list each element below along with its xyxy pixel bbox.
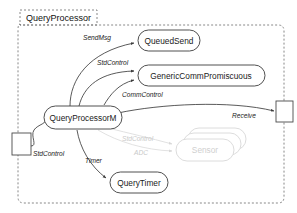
port-left-stdcontrol[interactable] xyxy=(12,133,31,155)
diagram-canvas: QueryProcessor Sensor StdControl ADC Sen… xyxy=(0,0,297,213)
port-right-receive[interactable] xyxy=(276,101,293,122)
edge-label-stdcontrol-sensor: StdControl xyxy=(122,135,154,142)
edge-label-sendmsg: SendMsg xyxy=(83,34,111,42)
node-querytimer[interactable]: QueryTimer xyxy=(110,172,168,193)
node-queuedsend[interactable]: QueuedSend xyxy=(138,30,200,51)
edge-stdcontrol-external xyxy=(31,118,46,146)
genericcommpromiscuous-label: GenericCommPromiscuous xyxy=(150,71,251,81)
edge-label-stdcontrol-comm: StdControl xyxy=(97,59,129,66)
node-genericcommpromiscuous[interactable]: GenericCommPromiscuous xyxy=(138,65,265,86)
node-queryprocessorm[interactable]: QueryProcessorM xyxy=(44,106,122,129)
component-diagram: QueryProcessor Sensor StdControl ADC Sen… xyxy=(0,0,297,213)
querytimer-label: QueryTimer xyxy=(117,178,161,188)
edge-label-stdcontrol-external: StdControl xyxy=(33,150,65,157)
queryprocessorm-label: QueryProcessorM xyxy=(50,113,117,123)
sensor-stack: Sensor xyxy=(176,128,246,161)
edge-timer xyxy=(77,130,106,178)
edge-label-commcontrol: CommControl xyxy=(122,91,163,98)
edge-label-adc: ADC xyxy=(133,149,148,156)
queuedsend-label: QueuedSend xyxy=(145,36,194,46)
edge-label-timer: Timer xyxy=(85,157,103,164)
edge-label-receive: Receive xyxy=(232,112,256,119)
configuration-title: QueryProcessor xyxy=(26,13,91,23)
sensor-label: Sensor xyxy=(192,145,219,155)
